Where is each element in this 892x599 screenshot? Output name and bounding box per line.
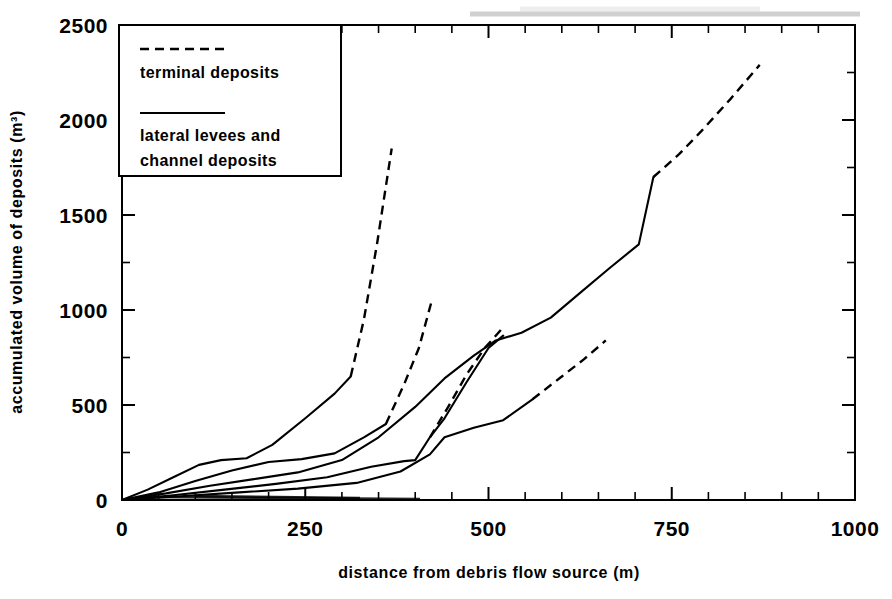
x-tick-label-500: 500 xyxy=(470,517,507,540)
y-tick-labels: 05001000150020002500 xyxy=(59,14,108,512)
baseline-overlap-artifact xyxy=(150,496,420,499)
y-tick-label-2500: 2500 xyxy=(59,14,108,37)
series-flow-1-terminal xyxy=(351,149,392,377)
figure-root: 02505007501000 05001000150020002500 term… xyxy=(0,0,892,599)
series-flow-2-channel xyxy=(122,424,386,500)
series-flow-5-terminal xyxy=(533,340,606,399)
x-tick-label-250: 250 xyxy=(287,517,324,540)
scan-artifact-top xyxy=(470,9,860,14)
series-flow-2-terminal xyxy=(386,302,431,424)
y-tick-label-1500: 1500 xyxy=(59,204,108,227)
x-axis-title: distance from debris flow source (m) xyxy=(338,564,640,581)
legend-label-lateral-line1: lateral levees and xyxy=(140,127,281,144)
x-tick-label-1000: 1000 xyxy=(831,517,880,540)
x-tick-label-750: 750 xyxy=(653,517,690,540)
y-tick-label-1000: 1000 xyxy=(59,299,108,322)
y-tick-label-500: 500 xyxy=(71,394,108,417)
series-flow-3-terminal xyxy=(653,65,759,177)
cropped-caption-ghost xyxy=(100,585,103,599)
series-flow-3-channel xyxy=(122,177,653,500)
chart-legend: terminal deposits lateral levees and cha… xyxy=(119,25,341,176)
chart-svg: 02505007501000 05001000150020002500 term… xyxy=(0,0,892,599)
y-tick-label-0: 0 xyxy=(96,489,108,512)
y-axis-title: accumulated volume of deposits (m³) xyxy=(8,110,25,414)
y-tick-label-2000: 2000 xyxy=(59,109,108,132)
legend-label-terminal: terminal deposits xyxy=(140,64,279,81)
y-axis-ticks-right xyxy=(842,25,855,500)
x-tick-labels: 02505007501000 xyxy=(116,517,879,540)
x-tick-label-0: 0 xyxy=(116,517,128,540)
legend-label-lateral-line2: channel deposits xyxy=(140,152,277,169)
